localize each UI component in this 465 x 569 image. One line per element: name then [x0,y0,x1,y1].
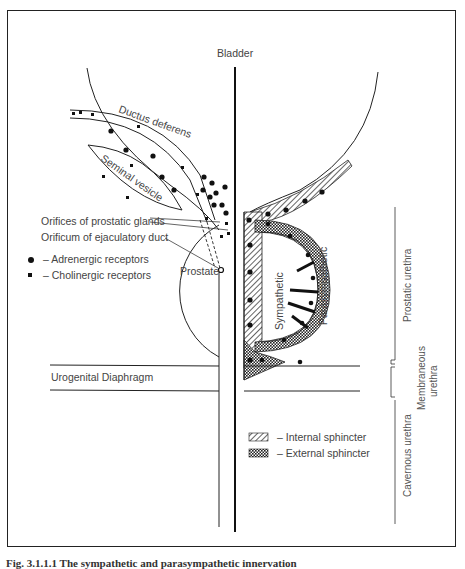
urogenital-diaphragm-label: Urogenital Diaphragm [51,371,153,383]
prostatic-urethra-bracket [391,207,395,364]
figure-caption: Fig. 3.1.1.1 The sympathetic and parasym… [6,557,297,569]
cholinergic-symbol-icon [28,273,32,277]
bladder-label: Bladder [217,47,254,59]
legend-adrenergic: – Adrenergic receptors [43,253,149,265]
cavernous-urethra-label: Cavernous urethra [402,414,413,497]
membraneous-urethra-label-2: urethra [428,365,439,397]
parasympathetic-label: Parasympathetic [317,247,329,325]
orificum-ejaculatory-duct-label: Orificum of ejaculatory duct [41,231,168,243]
legend-external-sphincter: – External sphincter [277,447,370,459]
orifices-prostatic-glands-label: Orifices of prostatic glands [41,215,165,227]
diaphragm-top-left [50,365,219,366]
legend-internal-sphincter: – Internal sphincter [277,431,367,443]
prostatic-urethra-label: Prostatic urethra [402,248,413,322]
membraneous-urethra-label-1: Membraneous [416,346,427,410]
internal-sphincter-swatch-icon [249,433,268,441]
external-sphincter-swatch-icon [249,449,268,457]
adrenergic-symbol-icon [28,257,34,263]
pointer-ejaculatory [165,238,218,268]
sympathetic-label: Sympathetic [273,272,285,330]
diaphragm-bottom-left [50,390,219,391]
legend-cholinergic: – Cholinergic receptors [43,269,151,281]
ductus-deferens-label: Ductus deferens [117,103,193,140]
bladder-neck-sphincter [250,160,352,222]
ejaculatory-orifice [219,268,224,273]
prostate-contour [180,225,219,357]
prostate-label: Prostate [180,265,219,277]
membraneous-urethra-bracket [391,367,395,397]
